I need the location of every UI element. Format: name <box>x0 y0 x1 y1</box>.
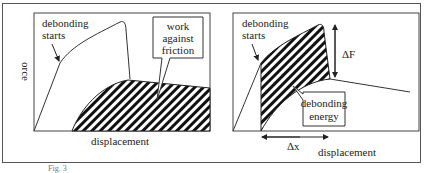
figure-caption: Fig. 3 <box>48 164 67 173</box>
right-debonding-label-1: debonding <box>242 17 289 29</box>
delta-f-label: ΔF <box>342 48 355 60</box>
right-debonding-label-2: starts <box>242 29 265 41</box>
left-y-axis-label: orce <box>20 62 32 81</box>
left-x-axis-label: displacement <box>91 135 149 147</box>
delta-x-label: Δx <box>287 140 300 152</box>
right-plot: debonding starts ΔF debonding energy Δx … <box>233 13 419 158</box>
callout-energy: energy <box>309 110 339 122</box>
right-x-axis-label: displacement <box>318 146 376 158</box>
diagram-canvas: debonding starts work against friction d… <box>0 0 426 173</box>
left-debonding-label-1: debonding <box>42 17 89 29</box>
left-debonding-label-2: starts <box>42 29 65 41</box>
callout-work: work <box>167 20 190 32</box>
left-plot: debonding starts work against friction d… <box>20 13 210 147</box>
callout-against: against <box>162 32 193 44</box>
callout-debonding: debonding <box>301 97 348 109</box>
callout-friction: friction <box>162 44 195 56</box>
